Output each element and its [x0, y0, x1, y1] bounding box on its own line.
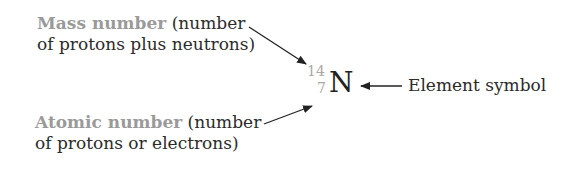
- arrows: [0, 0, 575, 170]
- mass-arrow-icon: [249, 27, 306, 64]
- atomic-arrow-icon: [264, 106, 312, 124]
